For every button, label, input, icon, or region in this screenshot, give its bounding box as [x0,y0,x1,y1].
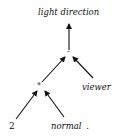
edge-two-to-times [16,91,37,119]
two-operand: 2 [9,122,15,131]
normal-suffix: . [86,121,89,131]
edge-times-to-minus [42,57,65,82]
normal-label: normal . [51,122,89,131]
edge-viewer-to-minus [73,57,93,78]
normal-text: normal [51,121,82,131]
edge-normal-to-times [45,91,64,117]
minus-operator-node: - [67,48,70,56]
viewer-label: viewer [82,83,111,92]
tree-edges [0,0,116,137]
times-operator-node: * [37,82,41,90]
light-direction-label: light direction [38,8,99,17]
